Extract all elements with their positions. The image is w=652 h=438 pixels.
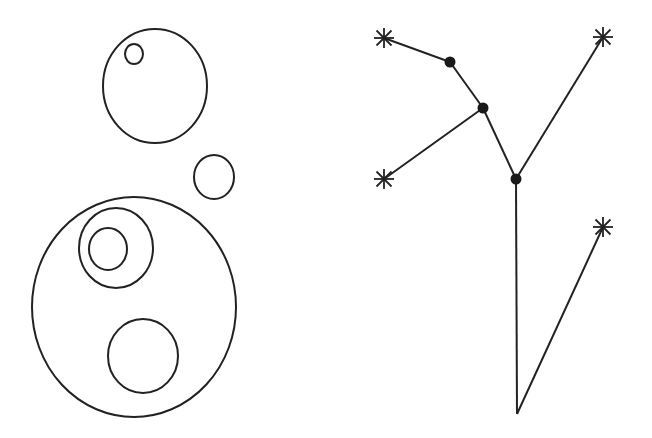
- leaf-1-asterisk-icon: [374, 28, 394, 48]
- edge-leaf-1-node-a: [384, 38, 450, 62]
- edge-node-a-node-b: [450, 62, 483, 108]
- ring-inner-circle: [89, 228, 127, 270]
- top-small-circle: [125, 44, 143, 64]
- node-b-dot-icon: [478, 103, 489, 114]
- top-circle: [103, 29, 207, 143]
- side-circle: [194, 155, 234, 199]
- tree-edges: [384, 37, 603, 414]
- diagram-svg: [0, 0, 652, 438]
- edge-root-leaf-4: [517, 227, 603, 414]
- leaf-2-asterisk-icon: [374, 169, 394, 189]
- leaf-3-asterisk-icon: [593, 27, 613, 47]
- edge-node-c-root: [516, 179, 517, 414]
- edge-node-c-leaf-3: [516, 37, 603, 179]
- edge-node-b-leaf-2: [384, 108, 483, 179]
- node-c-dot-icon: [511, 174, 522, 185]
- lower-circle: [108, 319, 178, 393]
- leaf-4-asterisk-icon: [593, 217, 613, 237]
- big-circle: [32, 197, 236, 417]
- edge-node-b-node-c: [483, 108, 516, 179]
- diagram-canvas: [0, 0, 652, 438]
- nested-circles-panel: [32, 29, 236, 417]
- node-a-dot-icon: [445, 57, 456, 68]
- ring-outer-circle: [79, 208, 153, 288]
